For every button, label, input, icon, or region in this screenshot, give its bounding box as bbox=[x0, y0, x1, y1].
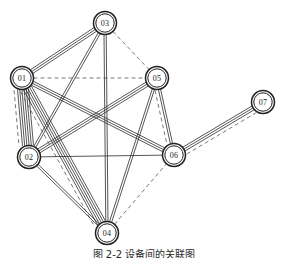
graph-edge-dashed bbox=[187, 113, 256, 154]
node-label: 01 bbox=[18, 74, 26, 83]
graph-edge-dashed bbox=[155, 90, 167, 145]
graph-edge bbox=[41, 155, 163, 157]
node-label: 03 bbox=[101, 19, 109, 28]
graph-node-04[interactable]: 04 bbox=[96, 222, 119, 245]
graph-edge bbox=[161, 89, 173, 144]
graph-node-07[interactable]: 07 bbox=[252, 91, 275, 114]
node-label: 02 bbox=[25, 153, 33, 162]
graph-node-03[interactable]: 03 bbox=[94, 12, 117, 35]
graph-edge bbox=[158, 89, 170, 144]
graph-edge bbox=[32, 29, 96, 71]
graph-edge bbox=[24, 89, 29, 145]
graph-edge bbox=[104, 35, 106, 222]
nodes-layer: 01020304050607 bbox=[11, 12, 275, 245]
node-label: 05 bbox=[153, 74, 161, 83]
graph-edge bbox=[183, 106, 252, 147]
graph-edge bbox=[184, 108, 253, 149]
node-label: 04 bbox=[103, 229, 111, 238]
relationship-graph: 01020304050607 bbox=[0, 0, 288, 258]
graph-edge bbox=[33, 81, 164, 148]
graph-node-02[interactable]: 02 bbox=[18, 146, 41, 169]
graph-edge bbox=[39, 84, 147, 151]
graph-edge bbox=[185, 110, 254, 151]
graph-edge bbox=[34, 32, 99, 146]
graph-edge bbox=[22, 90, 27, 146]
graph-edge bbox=[106, 34, 108, 221]
figure-caption: 图 2-2 设备间的关联图 bbox=[0, 249, 288, 258]
graph-edge bbox=[18, 90, 23, 146]
figure-container: 01020304050607 图 2-2 设备间的关联图 bbox=[0, 0, 288, 258]
graph-edge-dashed bbox=[113, 31, 149, 69]
node-label: 06 bbox=[170, 151, 178, 160]
node-label: 07 bbox=[259, 98, 267, 107]
graph-node-05[interactable]: 05 bbox=[146, 67, 169, 90]
graph-node-06[interactable]: 06 bbox=[163, 144, 186, 167]
graph-edge bbox=[40, 86, 148, 153]
graph-edge bbox=[30, 28, 94, 70]
graph-edge-dashed bbox=[114, 164, 166, 225]
graph-node-01[interactable]: 01 bbox=[11, 67, 34, 90]
graph-edge bbox=[31, 86, 105, 221]
edges-layer bbox=[14, 28, 256, 227]
